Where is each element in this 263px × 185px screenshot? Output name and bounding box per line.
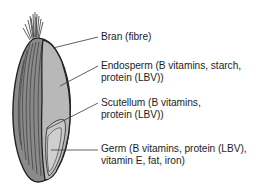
leader-line-bran bbox=[53, 37, 98, 48]
label-scutellum-line-1: Scutellum (B vitamins, bbox=[101, 97, 201, 109]
label-bran: Bran (fibre) bbox=[101, 31, 151, 43]
grain-brush-hairs bbox=[23, 12, 43, 40]
label-germ-line-2: vitamin E, fat, iron) bbox=[101, 155, 247, 167]
label-endosperm-line-1: Endosperm (B vitamins, starch, bbox=[101, 60, 241, 72]
label-germ: Germ (B vitamins, protein (LBV), vitamin… bbox=[101, 143, 247, 168]
label-scutellum-line-2: protein (LBV)) bbox=[101, 109, 201, 121]
label-endosperm: Endosperm (B vitamins, starch, protein (… bbox=[101, 60, 241, 85]
label-bran-line-1: Bran (fibre) bbox=[101, 31, 151, 43]
label-germ-line-1: Germ (B vitamins, protein (LBV), bbox=[101, 143, 247, 155]
label-scutellum: Scutellum (B vitamins, protein (LBV)) bbox=[101, 97, 201, 122]
label-endosperm-line-2: protein (LBV)) bbox=[101, 72, 241, 84]
